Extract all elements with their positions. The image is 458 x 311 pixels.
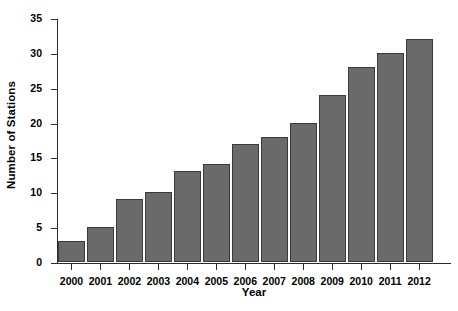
y-axis-title: Number of Stations (0, 0, 22, 270)
x-tick (361, 264, 362, 270)
y-tick: 10 (51, 193, 57, 194)
x-tick (216, 264, 217, 270)
y-tick-label: 10 (30, 186, 42, 198)
x-tick (419, 264, 420, 270)
bar (261, 137, 288, 262)
y-tick: 35 (51, 19, 57, 20)
bar (87, 227, 114, 262)
bar (203, 164, 230, 262)
x-tick (274, 264, 275, 270)
bar (58, 241, 85, 262)
x-tick (332, 264, 333, 270)
x-axis-line (57, 263, 451, 264)
x-tick (129, 264, 130, 270)
plot-area: 05101520253035 2000200120022003200420052… (57, 19, 451, 263)
y-tick: 25 (51, 89, 57, 90)
bar (377, 53, 404, 262)
y-tick: 30 (51, 54, 57, 55)
y-tick: 5 (51, 228, 57, 229)
bar (348, 67, 375, 262)
bar (116, 199, 143, 262)
y-axis-title-text: Number of Stations (5, 81, 17, 189)
y-tick: 15 (51, 158, 57, 159)
bar (145, 192, 172, 262)
x-tick (187, 264, 188, 270)
x-axis-title: Year (57, 286, 451, 298)
y-tick: 20 (51, 124, 57, 125)
bar (406, 39, 433, 262)
y-tick-label: 0 (36, 256, 42, 268)
x-tick (158, 264, 159, 270)
bar (232, 144, 259, 263)
x-tick (303, 264, 304, 270)
bar (319, 95, 346, 262)
x-tick (245, 264, 246, 270)
y-tick-label: 30 (30, 47, 42, 59)
x-tick (100, 264, 101, 270)
bar (290, 123, 317, 262)
x-tick (71, 264, 72, 270)
y-tick: 0 (51, 263, 57, 264)
y-tick-label: 35 (30, 12, 42, 24)
bar-chart: Number of Stations 05101520253035 200020… (0, 0, 458, 311)
y-axis-line (57, 19, 58, 264)
y-tick-label: 20 (30, 117, 42, 129)
y-tick-label: 5 (36, 221, 42, 233)
y-tick-label: 25 (30, 82, 42, 94)
y-tick-label: 15 (30, 151, 42, 163)
x-tick (390, 264, 391, 270)
bar (174, 171, 201, 262)
